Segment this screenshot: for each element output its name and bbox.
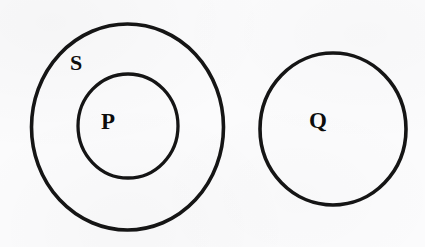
set-label-s: S: [70, 50, 82, 75]
set-label-p: P: [101, 109, 115, 134]
set-circle-s[interactable]: [32, 24, 224, 230]
set-label-q: Q: [309, 108, 327, 133]
euler-diagram-figure: S P Q: [0, 0, 425, 247]
set-circle-q[interactable]: [260, 53, 406, 205]
set-circle-p[interactable]: [78, 74, 178, 178]
diagram-canvas: S P Q: [0, 0, 425, 247]
